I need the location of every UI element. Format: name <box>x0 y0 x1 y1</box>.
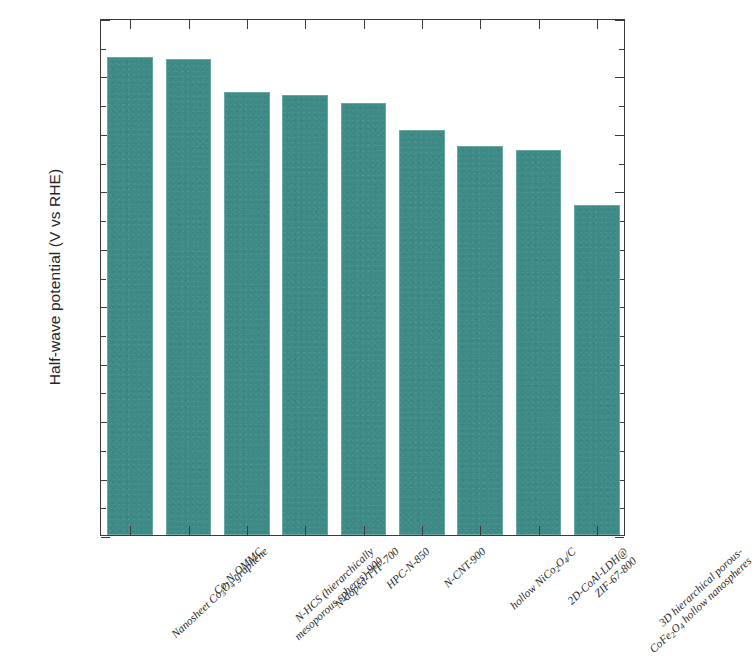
y-tick-minor-right <box>619 451 624 452</box>
y-tick-minor-right <box>619 49 624 50</box>
x-tick <box>422 526 423 535</box>
bar <box>457 146 503 535</box>
x-axis-label: 3D hierarchical porous-CoFe2O4 hollow na… <box>638 545 756 656</box>
y-tick-minor <box>101 336 106 337</box>
y-axis-title: Half-wave potential (V vs RHE) <box>46 117 64 437</box>
x-tick-top <box>422 20 423 29</box>
y-tick-minor <box>101 164 106 165</box>
x-axis-label: N-CNT-900 <box>441 545 488 590</box>
y-tick-minor <box>101 106 106 107</box>
y-tick-minor <box>101 451 106 452</box>
bar <box>399 130 445 535</box>
x-tick <box>539 526 540 535</box>
y-tick-major-right <box>615 192 624 193</box>
x-tick-top <box>539 20 540 29</box>
y-tick-major-right <box>615 135 624 136</box>
y-tick-minor <box>101 221 106 222</box>
x-tick <box>130 526 131 535</box>
x-tick <box>305 526 306 535</box>
y-tick-major-right <box>615 20 624 21</box>
y-tick-major <box>101 20 110 21</box>
y-tick-major-right <box>615 537 624 538</box>
bar <box>166 59 212 535</box>
x-tick-top <box>364 20 365 29</box>
bar <box>282 95 328 535</box>
bar <box>107 57 153 535</box>
x-tick-top <box>305 20 306 29</box>
x-tick-top <box>189 20 190 29</box>
bar <box>224 92 270 535</box>
x-tick <box>189 526 190 535</box>
bar <box>574 205 620 535</box>
x-tick-top <box>247 20 248 29</box>
y-tick-minor <box>101 279 106 280</box>
x-tick-top <box>130 20 131 29</box>
y-tick-minor-right <box>619 393 624 394</box>
x-tick <box>597 526 598 535</box>
y-tick-minor <box>101 49 106 50</box>
x-tick <box>480 526 481 535</box>
y-tick-minor-right <box>619 279 624 280</box>
bar <box>516 150 562 535</box>
y-tick-minor <box>101 508 106 509</box>
x-axis-label: N-HCS (hierarchicallymesoporous spheres)… <box>283 545 385 642</box>
y-tick-minor-right <box>619 106 624 107</box>
y-tick-minor-right <box>619 221 624 222</box>
y-tick-major-right <box>615 77 624 78</box>
y-tick-minor-right <box>619 336 624 337</box>
x-tick-top <box>597 20 598 29</box>
x-tick-top <box>480 20 481 29</box>
y-tick-minor <box>101 393 106 394</box>
y-tick-minor-right <box>619 508 624 509</box>
x-tick <box>247 526 248 535</box>
bar <box>341 103 387 535</box>
y-tick-minor-right <box>619 164 624 165</box>
plot-area: 0.00.10.20.30.40.50.60.70.80.9 <box>100 19 625 536</box>
x-tick <box>364 526 365 535</box>
y-tick-major <box>101 537 110 538</box>
